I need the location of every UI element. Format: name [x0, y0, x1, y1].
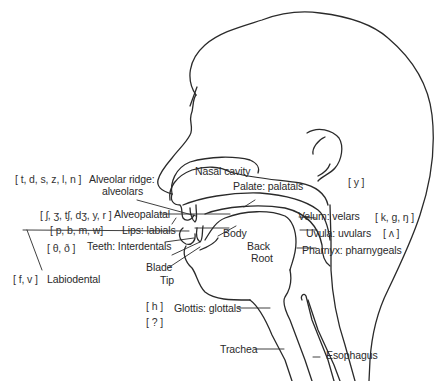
label-palate: Palate: palatals	[233, 180, 303, 192]
trachea-front	[250, 300, 292, 381]
label-labiodental: Labiodental	[47, 273, 100, 285]
ipa-velars: [ k, g, ŋ ]	[375, 211, 414, 223]
ipa-alveolars: [ t, d, s, z, l, n ]	[15, 173, 81, 185]
label-pharynx: Pharnyx: pharnygeals	[302, 244, 402, 256]
ipa-uvulars: [ ʌ ]	[383, 227, 399, 239]
label-trachea: Trachea	[220, 343, 257, 355]
lower-lip	[180, 228, 196, 244]
vocal-tract-diagram: Nasal cavity [ t, d, s, z, l, n ] Alveol…	[0, 0, 443, 381]
ipa-glottal-stop: [ ? ]	[146, 316, 163, 328]
label-teeth: Teeth: Interdentals	[87, 240, 172, 252]
label-lips: Lips: labials	[122, 224, 176, 236]
chin	[184, 246, 250, 300]
label-esophagus: Esophagus	[326, 349, 378, 361]
ipa-palatals: [ y ]	[348, 176, 364, 188]
epiglottis	[301, 294, 334, 381]
ear-inner	[313, 137, 325, 154]
ipa-labiodentals: [ f, v ]	[13, 273, 38, 285]
label-alveolar-ridge: Alveolar ridge:	[89, 173, 155, 185]
ipa-interdentals: [ θ, ð ]	[47, 242, 75, 254]
esophagus-wall	[308, 300, 340, 381]
label-uvula: Uvula: uvulars	[306, 227, 371, 239]
label-tongue-root: Root	[251, 252, 273, 264]
skull-outline	[190, 12, 433, 381]
label-tongue-body: Body	[223, 227, 247, 239]
label-tongue-tip: Tip	[160, 274, 174, 286]
ipa-glottal-h: [ h ]	[146, 300, 163, 312]
label-glottis: Glottis: glottals	[174, 302, 241, 314]
label-tongue-back: Back	[247, 240, 270, 252]
label-alveopalatal: Alveopalatal	[114, 208, 170, 220]
larynx-front	[284, 270, 312, 381]
upper-lip	[171, 194, 194, 220]
label-tongue-blade: Blade	[146, 261, 172, 273]
head-outline-drawing	[0, 0, 443, 381]
label-velum: Velum: velars	[298, 210, 360, 222]
ipa-alveopalatals: [ ʃ, ʒ, tʃ, dʒ, y, r ]	[40, 209, 111, 221]
label-nasal-cavity: Nasal cavity	[195, 165, 250, 177]
label-alveolars: alveolars	[102, 185, 143, 197]
tongue-lower	[200, 238, 218, 250]
ipa-labials: [ p, b, m, w]	[50, 224, 103, 236]
